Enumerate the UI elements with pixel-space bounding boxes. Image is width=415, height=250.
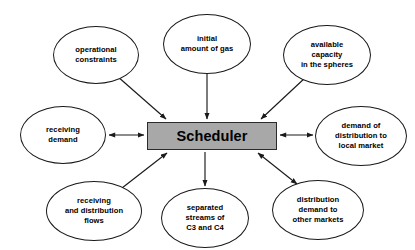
node-demand-of-distribution-to-local-market[interactable]: demand of distribution to local market [315, 106, 407, 166]
node-distribution-demand-to-other-markets-label: distribution demand to other markets [289, 195, 348, 225]
node-demand-of-distribution-to-local-market-label: demand of distribution to local market [331, 121, 391, 151]
node-receiving-demand-label: receiving demand [42, 125, 84, 145]
node-operational-constraints[interactable]: operational constraints [53, 26, 139, 84]
node-receiving-demand[interactable]: receiving demand [20, 106, 106, 164]
node-receiving-and-distribution-flows[interactable]: receiving and distribution flows [46, 181, 142, 241]
edge-distribution-demand-other-markets [258, 153, 297, 184]
node-receiving-and-distribution-flows-label: receiving and distribution flows [61, 196, 127, 226]
node-initial-amount-of-gas[interactable]: initial amount of gas [163, 14, 251, 74]
edge-available-capacity [261, 77, 306, 119]
scheduler-hub-box[interactable]: Scheduler [147, 122, 277, 150]
node-operational-constraints-label: operational constraints [71, 45, 120, 65]
scheduler-hub-label: Scheduler [176, 128, 247, 144]
diagram-canvas: operational constraints initial amount o… [0, 0, 415, 250]
node-initial-amount-of-gas-label: initial amount of gas [177, 34, 238, 54]
edge-receiving-and-distribution-flows [122, 153, 167, 188]
node-available-capacity-in-the-spheres[interactable]: available capacity in the spheres [283, 25, 371, 85]
node-available-capacity-in-the-spheres-label: available capacity in the spheres [297, 40, 357, 70]
node-separated-streams-of-c3-and-c4-label: separated streams of C3 and C4 [182, 203, 229, 233]
node-distribution-demand-to-other-markets[interactable]: distribution demand to other markets [272, 180, 364, 240]
node-separated-streams-of-c3-and-c4[interactable]: separated streams of C3 and C4 [161, 188, 249, 248]
edge-operational-constraints [117, 76, 166, 119]
